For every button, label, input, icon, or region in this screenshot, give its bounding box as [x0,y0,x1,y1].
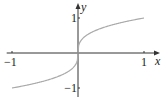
y-tick-label: −1 [64,81,77,95]
x-axis-label: x [154,54,161,68]
y-tick-label: 1 [71,11,77,25]
x-tick-label: −1 [4,55,17,69]
y-axis-label: y [80,0,87,14]
y-axis-arrow [76,3,81,9]
chart: −111−1 x y [0,0,164,101]
x-tick-label: 1 [141,55,147,69]
